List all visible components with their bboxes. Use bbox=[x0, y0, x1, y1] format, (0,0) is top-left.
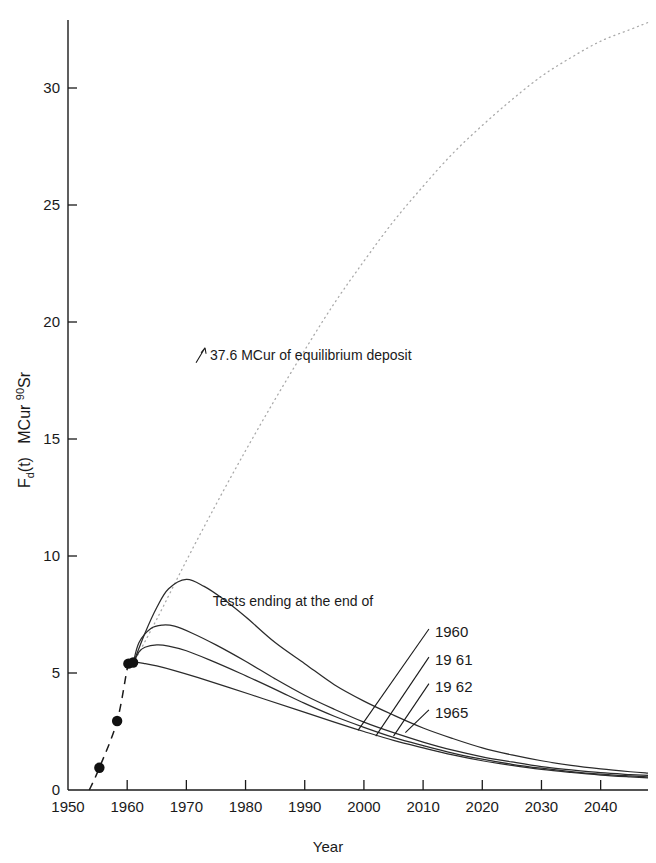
x-tick-label: 2020 bbox=[466, 798, 499, 815]
data-curves bbox=[89, 22, 648, 790]
series-leader-lines bbox=[358, 629, 429, 736]
x-axis-title: Year bbox=[313, 838, 343, 855]
x-tick-label: 2010 bbox=[406, 798, 439, 815]
measured-data-points bbox=[94, 657, 138, 773]
y-axis-title: Fd(t) MCur 90Sr bbox=[14, 371, 36, 488]
x-axis-ticks: 1950196019701980199020002010202020302040 bbox=[51, 780, 617, 815]
x-tick-label: 2040 bbox=[584, 798, 617, 815]
y-tick-label: 0 bbox=[52, 781, 60, 798]
label-1961: 19 61 bbox=[435, 651, 473, 668]
equilibrium-annotation-text: 37.6 MCur of equilibrium deposit bbox=[210, 347, 412, 363]
y-tick-label: 30 bbox=[43, 79, 60, 96]
series-labels: 196019 6119 621965 bbox=[435, 623, 473, 721]
y-title-isotope: Sr bbox=[16, 371, 33, 388]
data-point-marker bbox=[94, 763, 104, 773]
y-tick-label: 10 bbox=[43, 547, 60, 564]
axes-group bbox=[68, 20, 648, 790]
figure-container: 051015202530 195019601970198019902000201… bbox=[0, 0, 656, 863]
y-tick-label: 25 bbox=[43, 196, 60, 213]
y-axis-ticks: 051015202530 bbox=[43, 79, 77, 798]
curve-equilibrium bbox=[133, 22, 648, 663]
leader-line-1961 bbox=[376, 657, 429, 736]
x-tick-label: 1970 bbox=[170, 798, 203, 815]
equilibrium-annotation: 37.6 MCur of equilibrium deposit bbox=[196, 347, 412, 363]
label-1962: 19 62 bbox=[435, 678, 473, 695]
y-title-paren: (t) bbox=[16, 457, 33, 472]
x-tick-label: 1990 bbox=[288, 798, 321, 815]
y-tick-label: 20 bbox=[43, 313, 60, 330]
svg-text:Fd(t) MCur 90Sr: Fd(t) MCur 90Sr bbox=[14, 371, 36, 488]
x-tick-label: 2000 bbox=[347, 798, 380, 815]
y-tick-label: 15 bbox=[43, 430, 60, 447]
equilibrium-arrow-icon bbox=[196, 348, 206, 363]
label-1960: 1960 bbox=[435, 623, 468, 640]
x-tick-label: 1980 bbox=[229, 798, 262, 815]
y-title-unit: MCur bbox=[16, 404, 33, 444]
y-title-symbol: F bbox=[16, 478, 33, 488]
curve-tests-1960 bbox=[130, 662, 648, 777]
data-point-marker bbox=[128, 657, 138, 667]
curve-tests-1962 bbox=[133, 625, 648, 776]
radioactive-deposit-chart: 051015202530 195019601970198019902000201… bbox=[0, 0, 656, 863]
x-tick-label: 1960 bbox=[110, 798, 143, 815]
curve-tests-1961 bbox=[133, 645, 648, 777]
y-title-isotope-superscript: 90 bbox=[14, 388, 26, 400]
label-1965: 1965 bbox=[435, 704, 468, 721]
annotations-group: 37.6 MCur of equilibrium deposit Tests e… bbox=[196, 347, 412, 610]
curve-tests-1965 bbox=[133, 579, 648, 773]
x-tick-label: 2030 bbox=[525, 798, 558, 815]
y-tick-label: 5 bbox=[52, 664, 60, 681]
x-tick-label: 1950 bbox=[51, 798, 84, 815]
legend-caption-text: Tests ending at the end of bbox=[213, 593, 373, 609]
data-point-marker bbox=[112, 716, 122, 726]
